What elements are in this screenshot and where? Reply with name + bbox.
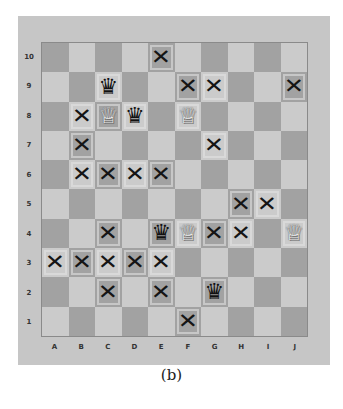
square-b7: ✕: [69, 131, 96, 160]
square-d2: [122, 277, 149, 306]
square-g3: [201, 248, 228, 277]
square-j6: [281, 160, 308, 189]
square-c4: ✕: [95, 219, 122, 248]
rank-labels: 10987654321: [20, 42, 38, 337]
square-g6: [201, 160, 228, 189]
x-mark-icon: ✕: [98, 282, 118, 303]
square-b3: ✕: [69, 248, 96, 277]
square-f10: [175, 43, 202, 72]
square-a5: [42, 189, 69, 218]
square-e9: [148, 72, 175, 101]
square-c7: [95, 131, 122, 160]
square-e7: [148, 131, 175, 160]
x-mark-icon: ✕: [45, 252, 65, 273]
square-f1: ✕: [175, 307, 202, 336]
x-mark-icon: ✕: [151, 252, 171, 273]
square-g8: [201, 102, 228, 131]
square-c6: ✕: [95, 160, 122, 189]
rank-label: 4: [20, 219, 38, 249]
x-mark-icon: ✕: [125, 252, 145, 273]
square-g1: [201, 307, 228, 336]
rank-label: 6: [20, 160, 38, 190]
square-g10: [201, 43, 228, 72]
square-e5: [148, 189, 175, 218]
square-h3: [228, 248, 255, 277]
square-c5: [95, 189, 122, 218]
square-j8: [281, 102, 308, 131]
square-j2: [281, 277, 308, 306]
square-g7: ✕: [201, 131, 228, 160]
square-b6: ✕: [69, 160, 96, 189]
file-label: F: [175, 343, 202, 357]
square-d1: [122, 307, 149, 336]
square-b4: [69, 219, 96, 248]
square-d10: [122, 43, 149, 72]
square-h8: [228, 102, 255, 131]
x-mark-icon: ✕: [151, 282, 171, 303]
figure-caption: (b): [0, 366, 343, 384]
square-i5: ✕: [254, 189, 281, 218]
file-label: I: [255, 343, 282, 357]
square-c9: ♛: [95, 72, 122, 101]
square-h2: [228, 277, 255, 306]
x-mark-icon: ✕: [98, 252, 118, 273]
square-a1: [42, 307, 69, 336]
x-mark-icon: ✕: [204, 223, 224, 244]
square-c10: [95, 43, 122, 72]
file-labels: ABCDEFGHIJ: [41, 343, 308, 357]
square-c8: ♕: [95, 102, 122, 131]
chessboard: ✕♛✕✕✕✕♕♛♕✕✕✕✕✕✕✕✕✕♛♕✕✕♕✕✕✕✕✕✕✕♛✕: [41, 42, 308, 337]
x-mark-icon: ✕: [204, 135, 224, 156]
square-j10: [281, 43, 308, 72]
square-d6: ✕: [122, 160, 149, 189]
square-f4: ♕: [175, 219, 202, 248]
file-label: J: [281, 343, 308, 357]
square-b1: [69, 307, 96, 336]
x-mark-icon: ✕: [72, 164, 92, 185]
white-queen-icon: ♕: [178, 105, 198, 127]
x-mark-icon: ✕: [72, 252, 92, 273]
square-d4: [122, 219, 149, 248]
square-h7: [228, 131, 255, 160]
black-queen-icon: ♛: [151, 222, 171, 244]
rank-label: 9: [20, 72, 38, 102]
black-queen-icon: ♛: [125, 105, 145, 127]
black-queen-icon: ♛: [98, 76, 118, 98]
white-queen-icon: ♕: [284, 222, 304, 244]
x-mark-icon: ✕: [72, 135, 92, 156]
square-g5: [201, 189, 228, 218]
rank-label: 1: [20, 308, 38, 338]
rank-label: 5: [20, 190, 38, 220]
x-mark-icon: ✕: [98, 164, 118, 185]
square-i9: [254, 72, 281, 101]
x-mark-icon: ✕: [178, 311, 198, 332]
square-f9: ✕: [175, 72, 202, 101]
square-e2: ✕: [148, 277, 175, 306]
square-h1: [228, 307, 255, 336]
square-i10: [254, 43, 281, 72]
x-mark-icon: ✕: [284, 76, 304, 97]
square-f6: [175, 160, 202, 189]
square-a2: [42, 277, 69, 306]
square-i8: [254, 102, 281, 131]
square-e6: ✕: [148, 160, 175, 189]
square-g4: ✕: [201, 219, 228, 248]
square-d3: ✕: [122, 248, 149, 277]
square-i2: [254, 277, 281, 306]
x-mark-icon: ✕: [204, 76, 224, 97]
square-d7: [122, 131, 149, 160]
rank-label: 8: [20, 101, 38, 131]
square-i3: [254, 248, 281, 277]
x-mark-icon: ✕: [151, 164, 171, 185]
x-mark-icon: ✕: [72, 106, 92, 127]
square-c2: ✕: [95, 277, 122, 306]
square-g2: ♛: [201, 277, 228, 306]
x-mark-icon: ✕: [178, 76, 198, 97]
square-j4: ♕: [281, 219, 308, 248]
rank-label: 10: [20, 42, 38, 72]
square-h6: [228, 160, 255, 189]
rank-label: 3: [20, 249, 38, 279]
square-b8: ✕: [69, 102, 96, 131]
square-a8: [42, 102, 69, 131]
file-label: B: [68, 343, 95, 357]
